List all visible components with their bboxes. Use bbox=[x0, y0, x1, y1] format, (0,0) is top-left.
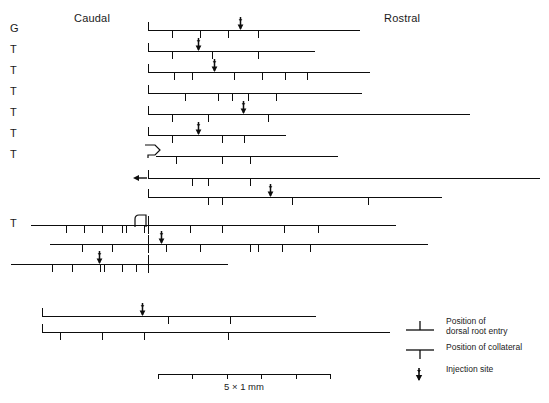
injection-site-icon bbox=[240, 101, 247, 114]
scale-tick bbox=[261, 374, 262, 379]
collateral-tick bbox=[168, 316, 169, 324]
injection-site-icon bbox=[139, 303, 146, 316]
collateral-tick bbox=[285, 72, 286, 80]
dorsal-root-entry-marker bbox=[148, 64, 149, 73]
collateral-tick bbox=[292, 197, 293, 205]
collateral-tick bbox=[100, 264, 101, 272]
collateral-tick bbox=[84, 225, 85, 233]
injection-site-icon bbox=[195, 38, 202, 51]
scale-tick bbox=[330, 374, 331, 379]
collateral-tick bbox=[250, 156, 251, 164]
scale-tick bbox=[296, 374, 297, 379]
collateral-tick bbox=[102, 225, 103, 233]
hook-marker bbox=[134, 214, 147, 227]
collateral-tick bbox=[190, 225, 191, 233]
axon-line bbox=[31, 225, 396, 226]
axon-line bbox=[148, 72, 370, 73]
row-label: T bbox=[10, 85, 24, 97]
collateral-tick bbox=[185, 93, 186, 101]
collateral-tick bbox=[222, 135, 223, 143]
collateral-tick bbox=[250, 244, 251, 252]
collateral-tick bbox=[222, 156, 223, 164]
collateral-tick bbox=[222, 225, 223, 233]
row-label: T bbox=[10, 64, 24, 76]
axon-line bbox=[50, 244, 428, 245]
dorsal-root-entry-marker bbox=[148, 127, 149, 136]
axon-line bbox=[156, 156, 338, 157]
scale-bar-label: 5 × 1 mm bbox=[158, 381, 330, 392]
axon-line bbox=[148, 197, 442, 198]
collateral-tick bbox=[250, 178, 251, 186]
axon-reconstruction-figure: Caudal Rostral GTTTTTTT 5 × 1 mm Positio… bbox=[0, 0, 549, 403]
collateral-tick bbox=[276, 93, 277, 101]
row-label: T bbox=[10, 127, 24, 139]
collateral-tick bbox=[52, 264, 53, 272]
injection-site-icon bbox=[267, 184, 274, 197]
collateral-tick bbox=[122, 225, 123, 233]
collateral-tick bbox=[228, 30, 229, 38]
collateral-tick bbox=[234, 72, 235, 80]
axon-line bbox=[148, 51, 315, 52]
injection-site-icon bbox=[211, 59, 218, 72]
collateral-tick bbox=[192, 178, 193, 186]
axon-line bbox=[148, 114, 470, 115]
dorsal-root-entry-marker bbox=[148, 170, 149, 179]
legend: Position of dorsal root entryPosition of… bbox=[404, 318, 544, 388]
injection-site-icon bbox=[96, 251, 103, 264]
collateral-tick bbox=[258, 51, 259, 59]
dorsal-root-entry-icon bbox=[404, 318, 438, 336]
scale-tick bbox=[227, 374, 228, 379]
dorsal-root-entry-marker bbox=[42, 324, 43, 333]
collateral-tick bbox=[208, 114, 209, 122]
row-label: T bbox=[10, 217, 24, 229]
collateral-tick bbox=[174, 72, 175, 80]
dorsal-root-entry-marker bbox=[42, 308, 43, 317]
collateral-tick bbox=[318, 225, 319, 233]
collateral-tick bbox=[258, 244, 259, 252]
legend-item: Injection site bbox=[404, 366, 544, 388]
collateral-tick bbox=[72, 264, 73, 272]
collateral-tick bbox=[208, 178, 209, 186]
dorsal-root-entry-marker bbox=[148, 22, 149, 31]
collateral-tick bbox=[166, 244, 167, 252]
collateral-tick bbox=[230, 316, 231, 324]
legend-item: Position of collateral bbox=[404, 344, 544, 366]
dorsal-root-entry-marker bbox=[148, 85, 149, 94]
collateral-tick bbox=[307, 72, 308, 80]
injection-site-icon bbox=[195, 122, 202, 135]
dorsal-root-entry-marker bbox=[148, 255, 149, 273]
collateral-tick bbox=[172, 30, 173, 38]
axon-line bbox=[42, 332, 390, 333]
collateral-tick bbox=[122, 264, 123, 272]
row-label: T bbox=[10, 148, 24, 160]
collateral-tick bbox=[222, 197, 223, 205]
collateral-tick bbox=[126, 225, 127, 233]
collateral-tick bbox=[112, 244, 113, 252]
collateral-tick bbox=[136, 264, 137, 272]
axon-line bbox=[148, 178, 540, 179]
dorsal-root-entry-marker bbox=[148, 43, 149, 52]
axon-line bbox=[42, 316, 316, 317]
collateral-tick bbox=[176, 156, 177, 164]
collateral-tick bbox=[284, 225, 285, 233]
dorsal-root-entry-marker bbox=[148, 235, 149, 253]
collateral-tick bbox=[368, 197, 369, 205]
axon-line bbox=[148, 93, 362, 94]
axon-line bbox=[148, 135, 286, 136]
collateral-tick bbox=[144, 332, 145, 340]
axon-line bbox=[148, 30, 360, 31]
collateral-tick bbox=[218, 93, 219, 101]
collateral-tick bbox=[310, 244, 311, 252]
injection-site-icon bbox=[158, 231, 165, 244]
collateral-tick bbox=[200, 30, 201, 38]
axon-line bbox=[11, 264, 228, 265]
rostral-header: Rostral bbox=[384, 12, 420, 24]
scale-bar bbox=[158, 374, 330, 375]
collateral-tick bbox=[200, 244, 201, 252]
dorsal-root-entry-marker bbox=[148, 189, 149, 198]
injection-site-icon bbox=[404, 366, 438, 384]
collateral-tick bbox=[208, 197, 209, 205]
scale-tick bbox=[192, 374, 193, 379]
collateral-tick bbox=[282, 244, 283, 252]
row-label: G bbox=[10, 22, 24, 34]
